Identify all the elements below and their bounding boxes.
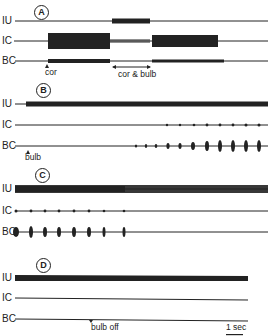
emg-figure: A B C D IU IC BC IU IC BC IU IC BC IU IC… xyxy=(0,0,271,336)
trace-label-bc: BC xyxy=(2,56,16,66)
trace-label-iu: IU xyxy=(2,184,12,194)
panel-b-label: B xyxy=(36,83,51,98)
trace-label-bc: BC xyxy=(2,141,16,151)
panel-d-label: D xyxy=(36,258,51,273)
trace-label-iu: IU xyxy=(2,16,12,26)
annotation-cor-bulb: cor & bulb xyxy=(118,70,156,79)
trace-label-ic: IC xyxy=(2,36,12,46)
panel-a-label: A xyxy=(34,5,49,20)
annotation-bulb: bulb xyxy=(25,153,41,162)
trace-label-bc: BC xyxy=(2,314,16,324)
trace-label-ic: IC xyxy=(2,120,12,130)
trace-label-bc: BC xyxy=(2,227,16,237)
scale-bar-label: 1 sec xyxy=(226,323,246,332)
panel-c-label: C xyxy=(35,168,50,183)
trace-label-ic: IC xyxy=(2,293,12,303)
trace-label-iu: IU xyxy=(2,273,12,283)
trace-label-ic: IC xyxy=(2,206,12,216)
trace-label-iu: IU xyxy=(2,99,12,109)
annotation-cor: cor xyxy=(45,68,57,77)
annotation-bulb-off: bulb off xyxy=(91,323,119,332)
